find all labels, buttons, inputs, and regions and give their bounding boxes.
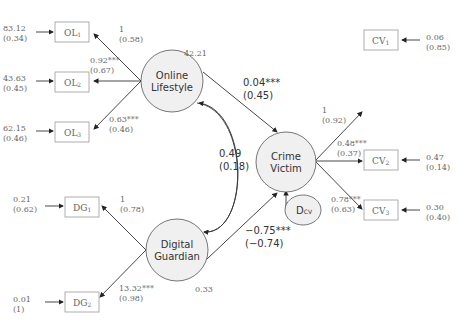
svg-text:Victim: Victim: [270, 163, 301, 174]
svg-text:(0.18): (0.18): [219, 161, 249, 172]
svg-text:62.15: 62.15: [3, 124, 26, 133]
svg-text:43.63: 43.63: [3, 74, 26, 83]
svg-text:(0.37): (0.37): [337, 149, 361, 158]
svg-text:(0.92): (0.92): [322, 116, 346, 125]
latent-online-lifestyle: [141, 50, 203, 112]
latent-digital-guardian: [146, 219, 208, 281]
svg-text:Guardian: Guardian: [154, 251, 200, 262]
svg-text:1: 1: [120, 195, 125, 204]
svg-text:Crime: Crime: [271, 151, 301, 162]
svg-text:0.06: 0.06: [426, 33, 444, 42]
svg-text:(0.85): (0.85): [426, 43, 450, 52]
svg-text:0.92***: 0.92***: [90, 56, 120, 65]
svg-text:(0.62): (0.62): [13, 205, 37, 214]
svg-text:(0.58): (0.58): [119, 35, 143, 44]
svg-text:83.12: 83.12: [3, 24, 26, 33]
svg-text:(0.63): (0.63): [331, 205, 355, 214]
svg-text:0.63***: 0.63***: [109, 115, 139, 124]
svg-text:(0.45): (0.45): [243, 90, 273, 101]
svg-text:(0.40): (0.40): [426, 213, 450, 222]
svg-text:(0.98): (0.98): [119, 294, 143, 303]
svg-text:0.48***: 0.48***: [337, 139, 367, 148]
svg-text:0.01: 0.01: [13, 295, 31, 304]
latent-crime-victim: [256, 132, 316, 192]
svg-text:1: 1: [119, 25, 124, 34]
svg-text:0.47: 0.47: [426, 153, 444, 162]
svg-text:−0.75***: −0.75***: [245, 225, 291, 236]
sem-diagram: OL1 OL2 OL3 DG1 DG2 CV1 CV2 CV3 Online L…: [0, 0, 461, 326]
svg-text:(0.46): (0.46): [109, 125, 133, 134]
svg-text:(0.14): (0.14): [426, 163, 450, 172]
svg-text:(−0.74): (−0.74): [245, 238, 284, 249]
svg-text:1: 1: [322, 106, 327, 115]
svg-text:(0.67): (0.67): [90, 66, 114, 75]
svg-text:0.33: 0.33: [195, 285, 213, 294]
svg-text:(0.78): (0.78): [120, 205, 144, 214]
svg-text:42.21: 42.21: [184, 49, 207, 58]
svg-text:Lifestyle: Lifestyle: [151, 82, 193, 93]
svg-text:(1): (1): [13, 305, 24, 314]
svg-text:0.21: 0.21: [13, 195, 31, 204]
svg-text:Digital: Digital: [161, 239, 193, 250]
svg-text:0.04***: 0.04***: [243, 77, 280, 88]
svg-text:(0.46): (0.46): [3, 134, 27, 143]
svg-text:(0.45): (0.45): [3, 84, 27, 93]
svg-text:0.49: 0.49: [219, 148, 241, 159]
svg-text:0.30: 0.30: [426, 203, 444, 212]
svg-text:13.32***: 13.32***: [119, 284, 154, 293]
svg-text:Online: Online: [156, 70, 188, 81]
svg-text:(0.34): (0.34): [3, 34, 27, 43]
svg-text:0.78***: 0.78***: [331, 195, 361, 204]
